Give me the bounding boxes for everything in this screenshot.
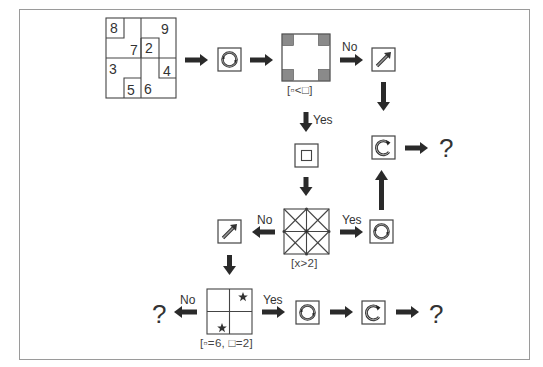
grid-number: 2	[145, 41, 153, 55]
full-cycle-icon	[218, 48, 241, 71]
full-cycle-icon	[370, 220, 393, 243]
branch-label-yes: Yes	[263, 293, 283, 307]
branch-label-yes: Yes	[313, 113, 333, 127]
arrow-right	[250, 54, 273, 66]
question-mark-output: ?	[439, 135, 453, 161]
arrow-right	[262, 306, 285, 318]
diagonal-arrow-icon	[218, 220, 241, 243]
corner-square-node	[282, 34, 330, 81]
nested-square-icon	[295, 144, 318, 167]
partial-cycle-icon	[362, 301, 385, 324]
x-grid-node	[283, 208, 330, 255]
arrow-right	[340, 226, 363, 238]
branch-label-yes: Yes	[342, 213, 362, 227]
arrow-left	[252, 226, 275, 238]
x-condition-caption: [x>2]	[291, 257, 318, 269]
arrow-right	[340, 54, 363, 66]
arrow-right	[405, 142, 428, 154]
arrow-right	[396, 306, 419, 318]
arrow-down	[377, 82, 390, 111]
grid-number: 3	[109, 62, 117, 76]
grid-number: 9	[161, 22, 169, 36]
grid-number: 5	[127, 83, 135, 97]
corner-condition-caption: [▫<□]	[287, 84, 313, 96]
grid-number: 4	[163, 64, 171, 78]
full-cycle-icon	[296, 301, 319, 324]
question-mark-output: ?	[152, 301, 166, 327]
arrow-down	[300, 177, 313, 196]
flowchart-canvas	[0, 0, 543, 367]
arrow-right	[330, 306, 353, 318]
question-mark-output: ?	[429, 301, 443, 327]
grid-number: 7	[130, 43, 138, 57]
grid-number: 8	[110, 21, 118, 35]
partial-cycle-icon	[372, 136, 395, 159]
star-condition-caption: [▫=6, □=2]	[200, 337, 253, 349]
arrow-down	[300, 112, 313, 132]
branch-label-no: No	[257, 213, 272, 227]
diagonal-arrow-icon	[372, 48, 395, 71]
arrow-down	[223, 255, 236, 275]
arrow-up	[375, 170, 388, 210]
arrow-left	[174, 306, 197, 318]
grid-number: 6	[144, 82, 152, 96]
branch-label-no: No	[180, 293, 195, 307]
arrow-right	[185, 54, 208, 66]
branch-label-no: No	[342, 40, 357, 54]
